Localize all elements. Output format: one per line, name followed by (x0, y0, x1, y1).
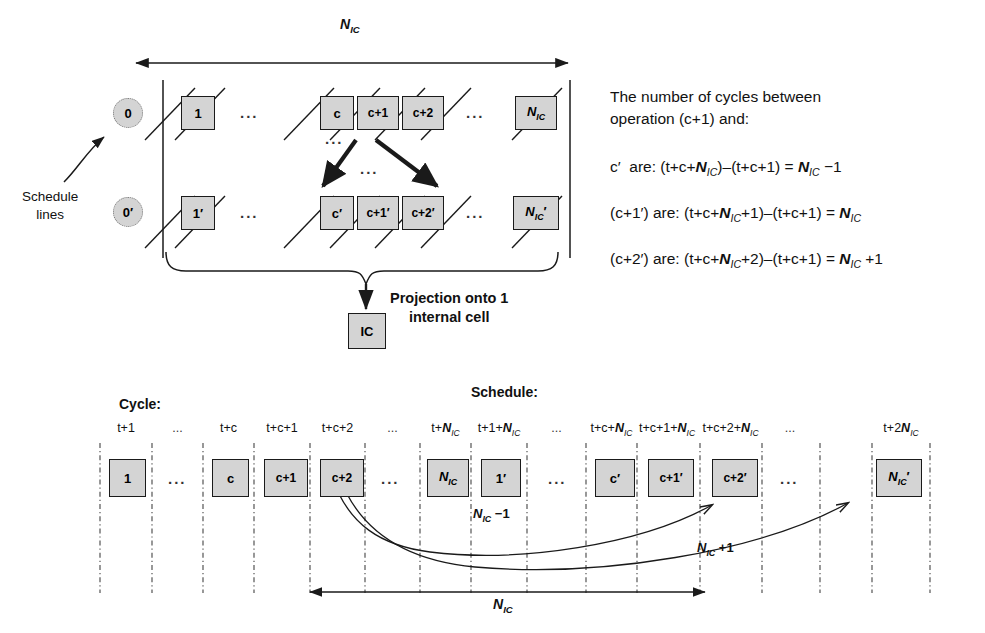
timeline-box-c-plus-1p[interactable]: c+1′ (648, 459, 694, 497)
tick-label-8: ... (527, 421, 586, 435)
timeline-box-c[interactable]: c (212, 459, 249, 497)
projection-brace (166, 252, 558, 284)
projection-label: Projection onto 1 internal cell (390, 289, 508, 327)
row2-start-circle: 0′ (113, 197, 143, 227)
row2-box-nicp[interactable]: NIC′ (513, 196, 559, 230)
row2-box-c-plus-2p[interactable]: c+2′ (402, 196, 444, 230)
row2-box-cp[interactable]: c′ (320, 196, 354, 230)
middle-ellipsis: ... (360, 160, 379, 177)
equation-item-2: (c+1′) are: (t+c+NIC+1)–(t+c+1) = NIC (610, 204, 861, 224)
row2-box-1p[interactable]: 1′ (181, 196, 215, 230)
equation-intro-line1: The number of cycles between (610, 88, 821, 106)
row2-ellipsis-1: ... (240, 204, 259, 221)
equation-intro-line2: operation (c+1) and: (610, 110, 749, 128)
timeline-box-nicp[interactable]: NIC′ (876, 459, 922, 497)
internal-cell-box[interactable]: IC (348, 313, 386, 349)
annotation-nic-plus-1: NIC +1 (697, 540, 734, 558)
projection-label-line1: Projection onto 1 (390, 290, 508, 306)
row1-ellipsis-1: ... (240, 104, 259, 121)
tick-label-3: t+c+1 (254, 421, 310, 435)
tick-label-13: t+2NIC (872, 421, 930, 438)
tick-label-12: ... (760, 421, 820, 435)
timeline-box-c-plus-2[interactable]: c+2 (320, 459, 364, 497)
timeline-box-c-plus-2p[interactable]: c+2′ (712, 459, 758, 497)
timeline-ellipsis-1: ... (168, 470, 187, 487)
timeline-ellipsis-2: ... (381, 470, 400, 487)
top-span-label: NIC (340, 16, 360, 35)
tick-label-4: t+c+2 (310, 421, 365, 435)
tick-label-10: t+c+1+NIC (635, 421, 699, 438)
row1-box-nic[interactable]: NIC (515, 96, 557, 130)
tick-label-0: t+1 (100, 421, 152, 435)
timeline-span-label: NIC (493, 596, 513, 615)
tick-label-1: ... (152, 421, 203, 435)
tick-label-7: t+1+NIC (471, 421, 527, 438)
timeline-box-nic[interactable]: NIC (427, 459, 469, 497)
schedule-lines-pointer (64, 137, 104, 182)
row1-ellipsis-2: ... (466, 104, 485, 121)
row1-box-c-plus-2[interactable]: c+2 (402, 96, 444, 130)
timeline-ellipsis-3: ... (548, 470, 567, 487)
timeline-curve-arrows (339, 494, 848, 570)
tick-label-6: t+NIC (420, 421, 471, 438)
tick-label-2: t+c (203, 421, 254, 435)
schedule-header: Schedule: (471, 384, 538, 400)
row1-ellipsis-below-c: ... (325, 130, 344, 147)
row2-box-c-plus-1p[interactable]: c+1′ (357, 196, 399, 230)
schedule-lines-label: Schedulelines (22, 188, 78, 223)
row1-box-1[interactable]: 1 (181, 96, 215, 130)
cycle-header: Cycle: (119, 396, 161, 412)
tick-label-5: ... (365, 421, 420, 435)
row2-ellipsis-2: ... (466, 204, 485, 221)
row1-box-c-plus-1[interactable]: c+1 (357, 96, 399, 130)
row1-box-c[interactable]: c (320, 96, 354, 130)
row1-start-circle: 0 (113, 98, 143, 128)
timeline-box-cp[interactable]: c′ (595, 459, 635, 497)
equation-item-3: (c+2′) are: (t+c+NIC+2)–(t+c+1) = NIC +1 (610, 250, 883, 270)
timeline-box-1[interactable]: 1 (109, 459, 146, 497)
timeline-box-c-plus-1[interactable]: c+1 (264, 459, 308, 497)
equation-item-1: c′ are: (t+c+NIC)–(t+c+1) = NIC −1 (610, 158, 842, 178)
projection-label-line2: internal cell (409, 309, 490, 325)
annotation-nic-minus-1: NIC −1 (473, 506, 510, 524)
timeline-box-1p[interactable]: 1′ (481, 459, 521, 497)
tick-label-11: t+c+2+NIC (699, 421, 762, 438)
timeline-ellipsis-4: ... (780, 470, 799, 487)
tick-label-9: t+c+NIC (586, 421, 637, 438)
